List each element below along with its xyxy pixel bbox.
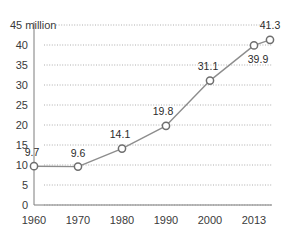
data-point-label: 9.7 xyxy=(25,146,40,158)
data-point-marker xyxy=(30,163,37,170)
y-tick-label: 35 xyxy=(16,59,28,71)
line-chart: 051015202530354045 million 1960197019801… xyxy=(0,0,284,238)
y-tick-label: 10 xyxy=(16,159,28,171)
data-point-label-group: 9.79.614.119.831.139.941.3 xyxy=(25,19,281,159)
y-axis-unit-label: 45 million xyxy=(10,19,56,31)
series-line xyxy=(34,40,270,167)
x-tick-label: 1980 xyxy=(110,214,134,226)
data-point-label: 31.1 xyxy=(198,60,219,72)
data-point-marker xyxy=(206,77,213,84)
data-point-marker xyxy=(74,163,81,170)
data-point-marker xyxy=(250,42,257,49)
data-point-label: 14.1 xyxy=(110,128,131,140)
y-tick-label: 20 xyxy=(16,119,28,131)
x-tick-label: 1970 xyxy=(66,214,90,226)
chart-canvas: 051015202530354045 million 1960197019801… xyxy=(0,0,284,238)
y-tick-label: 25 xyxy=(16,99,28,111)
x-tick-label: 2000 xyxy=(198,214,222,226)
x-tick-label: 1960 xyxy=(22,214,46,226)
data-point-label: 9.6 xyxy=(71,147,86,159)
y-tick-label: 5 xyxy=(22,179,28,191)
y-tick-label: 30 xyxy=(16,79,28,91)
data-point-marker xyxy=(162,122,169,129)
x-tick-label: 2013 xyxy=(242,214,266,226)
x-tick-label: 1990 xyxy=(154,214,178,226)
y-tick-label: 0 xyxy=(22,199,28,211)
data-point-label: 19.8 xyxy=(153,105,174,117)
data-point-label: 39.9 xyxy=(248,53,269,65)
y-tick-label-group: 051015202530354045 million xyxy=(10,19,56,211)
x-tick-label-group: 196019701980199020002013 xyxy=(22,214,266,226)
data-point-marker-group xyxy=(30,36,273,170)
data-point-marker xyxy=(266,36,273,43)
y-tick-label: 40 xyxy=(16,39,28,51)
data-point-label: 41.3 xyxy=(260,19,281,31)
data-point-marker xyxy=(118,145,125,152)
